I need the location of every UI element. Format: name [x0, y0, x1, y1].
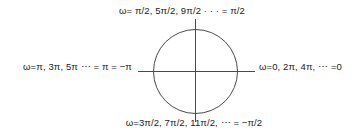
label-omega-left: ω=π, 3π, 5π ⋯ = π = −π	[23, 61, 132, 73]
unit-circle-diagram: ω= π/2, 5π/2, 9π/2 · · · = π/2 ω=π, 3π, …	[0, 0, 364, 135]
label-omega-top: ω= π/2, 5π/2, 9π/2 · · · = π/2	[119, 5, 245, 17]
label-omega-bottom: ω=3π/2, 7π/2, 11π/2, ⋯ = −π/2	[126, 117, 262, 129]
label-omega-right: ω=0, 2π, 4π, ⋯ =0	[259, 61, 342, 73]
